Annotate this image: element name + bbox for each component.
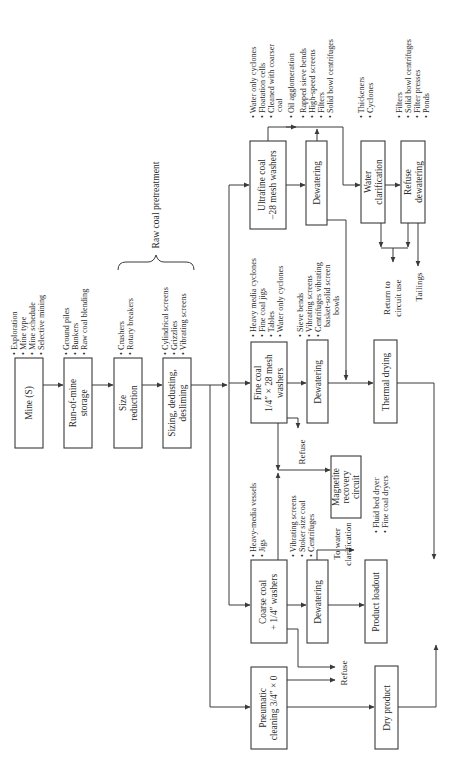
annotation-refuse-fine: Refuse	[297, 440, 307, 465]
list-coarse-coal: • Heavy-media vessels • Jigs	[249, 481, 267, 557]
equipment-lists: • Exploration • Mine type • Mine schedul…	[10, 37, 431, 557]
list-thermal-drying: • Fluid bed dryer • Fine coal dryers	[372, 475, 390, 533]
process-boxes	[15, 141, 425, 749]
arrow-fine-refuse	[287, 418, 298, 428]
list-fine-coal: • Heavy media cyclones • Fine coal jigs …	[249, 256, 285, 337]
arrow-dry-to-loadout	[398, 645, 436, 707]
list-ultrafine-dewatering: • Rapped sieve bends • High-speed screen…	[299, 39, 335, 118]
annotation-tailings: Tailings	[414, 272, 424, 301]
label-coarse-coal: Coarse coal+ 1/4″ washers	[258, 574, 279, 630]
annotation-to-water-clarification: To waterclarification	[332, 522, 353, 566]
label-mine: Mine (S)	[24, 386, 35, 420]
list-fine-dewatering: • Sieve bends • Vibrating screens • Cent…	[296, 260, 341, 337]
label-fine-dewatering: Dewatering	[313, 360, 323, 404]
label-ultrafine: Ultrafine coal−28 mesh washers	[257, 150, 278, 220]
arrow-thermal-to-loadout	[397, 383, 434, 559]
label-coarse-dewatering: Dewatering	[313, 580, 323, 624]
list-ultrafine: • Water only cyclones • Floatation cells…	[249, 42, 296, 118]
pretreatment-brace	[118, 255, 194, 270]
list-size-reduction: • Crushers • Rotary breakers	[117, 298, 135, 355]
annotation-return-to-circuit: Return tocircuit use	[382, 279, 403, 316]
arrow-to-pneumatic	[210, 385, 250, 707]
label-product-loadout: Product loadout	[371, 572, 381, 632]
label-ultrafine-dewatering: Dewatering	[312, 161, 322, 205]
list-sizing: • Cylindrical screens • Grizzlies • Vibr…	[161, 285, 188, 355]
list-water-clarification: • Thickeners • Cyclones	[357, 75, 375, 118]
list-rom: • Ground piles • Bunkers • Raw coal blen…	[62, 289, 89, 355]
list-mine: • Exploration • Mine type • Mine schedul…	[10, 295, 46, 355]
group-label-raw-coal-pretreatment: Raw coal pretreatment	[150, 161, 161, 248]
label-thermal-drying: Thermal drying	[381, 352, 391, 411]
annotation-refuse-coarse: Refuse	[339, 661, 349, 686]
label-dry-product: Dry product	[382, 685, 392, 731]
list-refuse-dewatering: • Filters • Solid bowl centrifuges • Fil…	[395, 37, 431, 118]
list-coarse-dewatering: • Vibrating screens • Stoker size coal •…	[289, 493, 316, 557]
